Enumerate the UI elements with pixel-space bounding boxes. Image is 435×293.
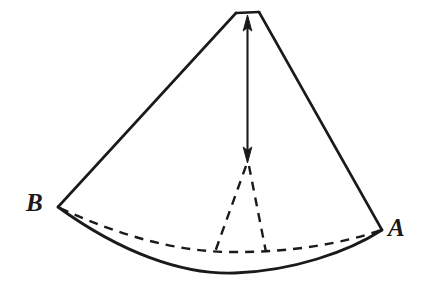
left-edge-apex-to-b [58,13,236,207]
vertex-label-a: A [388,215,405,240]
pyramid-diagram [0,0,435,293]
hidden-edge-dashed-left [215,166,246,252]
figure-canvas: B A [0,0,435,293]
vertex-label-b: B [26,190,43,215]
hidden-edge-dashed-right [249,166,266,252]
right-edge-apex-to-a [259,12,382,230]
base-back-arc-dashed [60,208,381,252]
base-front-arc [58,207,382,273]
apex-top-edge [236,12,259,13]
